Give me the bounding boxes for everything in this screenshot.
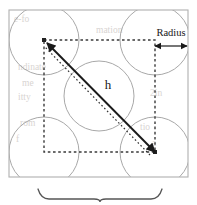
figure-root: e-fo mation ndinate me itty 2in rom f ti… [0, 0, 197, 205]
bleed-text: 2in [150, 88, 162, 98]
bleed-text: itty [18, 92, 31, 102]
bleed-text: tio [140, 122, 150, 132]
corner-marker-top-left [42, 38, 46, 42]
label-h: h [105, 77, 112, 92]
diagram-canvas: e-fo mation ndinate me itty 2in rom f ti… [0, 0, 197, 205]
diagonal-dotted-line [45, 47, 150, 155]
label-radius: Radius [156, 27, 185, 38]
diagonal-h-arrow [47, 43, 155, 152]
bleed-text: mation [96, 25, 123, 35]
bleed-text: rom [20, 118, 36, 128]
bleed-text: f [16, 134, 20, 144]
bleed-text: me [22, 78, 34, 88]
background-bleed-text: e-fo mation ndinate me itty 2in rom f ti… [14, 14, 162, 148]
bottom-brace [38, 189, 162, 202]
